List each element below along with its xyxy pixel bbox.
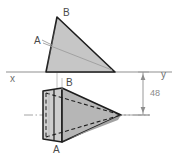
elevation-triangle-face (46, 17, 115, 72)
plan-label-a: A (53, 145, 60, 155)
axis-label-y: y (161, 70, 166, 80)
elevation-label-b: B (63, 8, 70, 18)
drawing-svg (0, 0, 177, 163)
technical-drawing-canvas: x y B A B A 48 (0, 0, 177, 163)
plan-pyramid-face (62, 88, 121, 142)
dimension-arrow-bottom (141, 107, 146, 113)
dimension-arrow-top (141, 74, 146, 80)
dimension-label-48: 48 (150, 88, 160, 98)
axis-label-x: x (10, 74, 15, 84)
elevation-label-a: A (34, 36, 41, 46)
plan-label-b: B (66, 78, 73, 88)
